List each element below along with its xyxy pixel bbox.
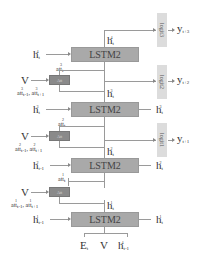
v2-line	[31, 136, 47, 137]
logit3-block: logit3	[157, 13, 167, 47]
input-h2-t-1: h2t-1	[33, 160, 44, 171]
att1-up	[68, 178, 69, 186]
logit2-connector	[104, 81, 156, 82]
logit3-connector	[104, 30, 156, 31]
h1-out-line	[139, 219, 151, 220]
arrow-icon	[172, 28, 175, 32]
arrow-icon	[153, 79, 156, 83]
h2-out-line	[139, 165, 151, 166]
att-input-1: att1t-1, att1t+1	[11, 199, 38, 209]
input-e-t: Et	[80, 240, 88, 251]
att2-in-line	[59, 147, 104, 148]
arrow-icon	[172, 138, 175, 142]
input-h4-t: h4t	[33, 49, 40, 60]
input-v-2: V	[21, 131, 29, 142]
h4-input-line	[46, 54, 69, 55]
v1-line	[31, 192, 47, 193]
bottom-left-tick	[84, 233, 85, 237]
att-block-2: Att	[49, 131, 70, 141]
arrow-icon	[153, 28, 156, 32]
output-y-t1: yt+1	[177, 133, 189, 144]
input-h1-t-1: h1t-1	[33, 214, 44, 225]
logit2-block: logit2	[157, 65, 167, 99]
arrow-icon	[153, 138, 156, 142]
bottom-bar	[84, 233, 127, 234]
att-block-1: Att	[49, 187, 70, 197]
output-y-t3: yt+3	[177, 23, 189, 34]
state-h2-t: h2t	[107, 146, 114, 157]
lstm2-block-1: LSTM2	[71, 212, 139, 227]
h2-input-line	[50, 165, 69, 166]
att1-to-trunk	[68, 181, 104, 182]
lstm2-block-4: LSTM2	[71, 47, 139, 62]
arrow-icon	[172, 79, 175, 83]
logit1-connector	[104, 140, 156, 141]
att3-in-line	[59, 91, 104, 92]
att1-in-line	[59, 203, 104, 204]
att-block-3: Att	[49, 75, 70, 85]
input-v-3: V	[21, 75, 29, 86]
output-h3-t: h3t	[156, 104, 163, 115]
h3-out-line	[139, 109, 151, 110]
input-h3-t: h3t	[33, 104, 40, 115]
output-h2-t: h2t	[156, 160, 163, 171]
att2-to-trunk	[59, 126, 104, 127]
state-h1-t: h1t	[107, 200, 114, 211]
state-h4-t: h4t	[107, 35, 114, 46]
att-input-2: att2t-1, att2t+1	[15, 143, 42, 153]
att-output-1: att1t	[58, 173, 65, 183]
input-h4-t-1: h4t-1	[118, 240, 129, 251]
input-v-1: V	[21, 187, 29, 198]
lstm2-block-3: LSTM2	[71, 102, 139, 117]
v3-line	[31, 80, 47, 81]
output-h1-t: h1t	[156, 214, 163, 225]
state-h3-t: h3t	[107, 88, 114, 99]
output-y-t2: yt+2	[177, 74, 189, 85]
bottom-right-tick	[127, 233, 128, 237]
input-v-bottom: V	[100, 240, 108, 251]
h1-input-line	[50, 219, 69, 220]
logit1-block: logit1	[157, 123, 167, 157]
att-input-3: att3t-1, att3t+1	[17, 87, 44, 97]
h3-input-line	[46, 109, 69, 110]
att3-to-trunk	[59, 70, 104, 71]
lstm2-block-2: LSTM2	[71, 158, 139, 173]
